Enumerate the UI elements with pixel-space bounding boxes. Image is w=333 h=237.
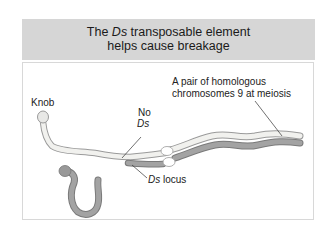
label-ds-locus-italic: Ds bbox=[148, 174, 160, 185]
synapse-point-upper bbox=[161, 147, 173, 156]
knob-icon bbox=[38, 111, 49, 123]
chromosome-diagram bbox=[0, 0, 333, 237]
label-pair-line2: chromosomes 9 at meiosis bbox=[172, 88, 291, 99]
label-ds-locus-rest: locus bbox=[160, 174, 186, 185]
label-knob: Knob bbox=[31, 97, 54, 108]
label-no-ds-line2: Ds bbox=[137, 118, 149, 129]
label-no-ds-line1: No bbox=[138, 107, 151, 118]
synapse-point-lower bbox=[163, 158, 175, 167]
broken-chromosome-fragment bbox=[59, 166, 99, 215]
fragment-knob-icon bbox=[59, 166, 71, 177]
label-pair-line1: A pair of homologous bbox=[172, 76, 266, 87]
label-ds-locus: Ds locus bbox=[148, 174, 186, 185]
